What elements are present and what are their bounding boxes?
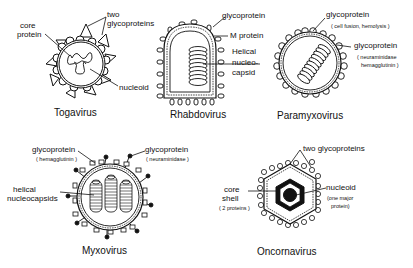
- togavirus-label-core-protein: protein: [17, 31, 41, 39]
- rhabdovirus-label-m-protein: M protein: [230, 32, 263, 40]
- myxovirus-label-glycoprotein-1: glycoprotein: [32, 146, 75, 154]
- oncornavirus-label-core: core: [224, 186, 240, 194]
- paramyxovirus-label-glycoprotein-2-function-1: ( neuraminidase: [357, 54, 396, 60]
- rhabdovirus-label-glycoprotein: glycoprotein: [222, 12, 265, 20]
- myxovirus-label-helical: helical: [13, 186, 36, 194]
- oncornavirus-label-shell: shell: [222, 195, 238, 203]
- togavirus-label-core: core: [20, 22, 36, 30]
- oncornavirus-label-two-glycoproteins: two glycoproteins: [303, 145, 365, 153]
- paramyxovirus-label-glycoprotein-1-function: ( cell fusion, hemolysis ): [331, 23, 390, 29]
- paramyxovirus-label-glycoprotein-2: glycoprotein: [354, 42, 397, 50]
- oncornavirus-label-one-major: (one major: [327, 195, 353, 201]
- oncornavirus-label-2-proteins: ( 2 proteins ): [219, 205, 250, 211]
- myxovirus-label-hemagglutinin: ( hemagglutinin ): [36, 156, 77, 162]
- virus-diagram: [0, 0, 413, 268]
- paramyxovirus-drawing: [274, 18, 351, 97]
- oncornavirus-label-protein: protein): [331, 203, 350, 209]
- myxovirus-label-glycoprotein-2: glycoprotein: [145, 146, 188, 154]
- myxovirus-label-nucleocapsids: nucleocapsids: [7, 195, 58, 203]
- togavirus-drawing: [45, 17, 118, 98]
- rhabdovirus-label-capsid: capsid: [232, 69, 255, 77]
- rhabdovirus-label-helical: Helical: [232, 48, 256, 56]
- togavirus-label-two: two: [107, 11, 119, 19]
- togavirus-label-glycoproteins: glycoproteins: [107, 20, 154, 28]
- paramyxovirus-label-glycoprotein-2-function-2: hemagglutinin ): [361, 62, 399, 68]
- myxovirus-drawing: [60, 151, 153, 239]
- togavirus-title: Togavirus: [54, 108, 97, 118]
- myxovirus-title: Myxovirus: [82, 246, 127, 256]
- rhabdovirus-label-nucleo: nucleo-: [232, 59, 258, 67]
- myxovirus-label-neuraminidase: ( neuraminidase ): [146, 156, 189, 162]
- oncornavirus-title: Oncornavirus: [257, 247, 316, 257]
- togavirus-label-nucleoid: nucleoid: [119, 84, 149, 92]
- oncornavirus-label-nucleoid: nucleoid: [326, 184, 356, 192]
- paramyxovirus-title: Paramyxovirus: [277, 111, 343, 121]
- oncornavirus-drawing: [248, 150, 326, 228]
- paramyxovirus-label-glycoprotein-1: glycoprotein: [326, 11, 369, 19]
- rhabdovirus-title: Rhabdovirus: [170, 110, 226, 120]
